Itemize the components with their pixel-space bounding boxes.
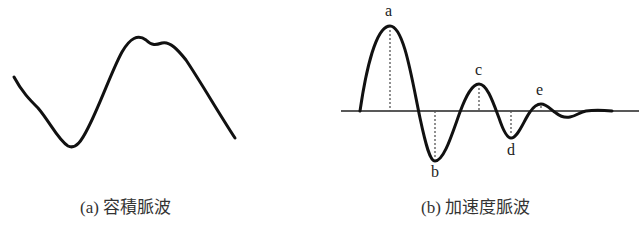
point-label-d: d xyxy=(507,141,515,159)
volume-pulse-curve xyxy=(14,37,235,147)
guide-lines xyxy=(390,30,541,158)
caption-panel-a: (a) 容積脈波 xyxy=(80,193,171,218)
point-label-e: e xyxy=(536,81,543,99)
point-label-a: a xyxy=(385,2,392,20)
acceleration-pulse-curve xyxy=(360,26,612,161)
point-label-c: c xyxy=(475,61,482,79)
caption-panel-b: (b) 加速度脈波 xyxy=(421,193,530,218)
point-label-b: b xyxy=(431,163,439,181)
